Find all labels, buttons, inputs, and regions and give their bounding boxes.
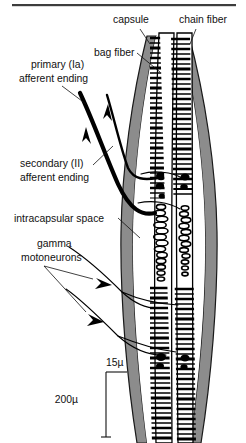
label-gamma-line1: gamma	[37, 238, 72, 249]
label-gamma-line2: motoneurons	[21, 252, 82, 263]
leader-gamma-upper	[44, 266, 93, 279]
spindle-diagram-svg: capsule chain fiber bag fiber primary (I…	[0, 0, 246, 443]
label-secondary-afferent-line1: secondary (II)	[20, 158, 84, 169]
bag-fiber-body	[155, 33, 174, 443]
label-secondary-afferent-line2: afferent ending	[20, 172, 89, 183]
muscle-spindle-figure: capsule chain fiber bag fiber primary (I…	[0, 0, 246, 443]
label-capsule: capsule	[113, 14, 149, 25]
leader-gamma-lower	[44, 266, 86, 312]
label-primary-afferent-line2: afferent ending	[19, 73, 88, 84]
scale-label-15u: 15µ	[106, 357, 124, 368]
label-bag-fiber: bag fiber	[94, 47, 135, 58]
afferent-arrow-lower	[82, 127, 91, 144]
label-intracapsular-space: intracapsular space	[14, 213, 104, 224]
label-primary-afferent-line1: primary (Ia)	[31, 59, 84, 70]
horizontal-divider-rule	[12, 4, 236, 6]
scale-label-200u: 200µ	[55, 394, 78, 405]
label-chain-fiber: chain fiber	[179, 14, 227, 25]
